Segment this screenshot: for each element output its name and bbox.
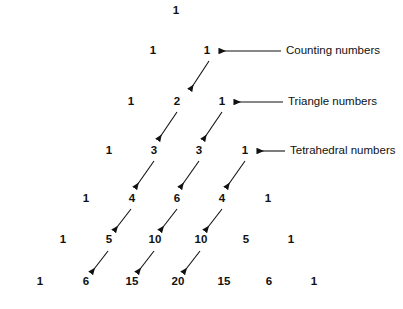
cell-r5-c4: 5 bbox=[243, 234, 249, 246]
diagonal-arrow bbox=[160, 209, 177, 231]
annotation-counting-numbers: Counting numbers bbox=[286, 45, 380, 57]
cell-r5-c3: 10 bbox=[195, 234, 208, 246]
cell-r1-c0: 1 bbox=[150, 45, 156, 57]
cell-r2-c2: 1 bbox=[219, 96, 225, 108]
annotation-triangle-numbers: Triangle numbers bbox=[288, 96, 377, 108]
diagonal-arrow bbox=[158, 112, 177, 140]
cell-r1-c1: 1 bbox=[204, 45, 210, 57]
cell-r3-c2: 3 bbox=[196, 145, 202, 157]
diagonal-arrow bbox=[135, 161, 154, 188]
cell-r6-c0: 1 bbox=[37, 276, 43, 288]
cell-r6-c1: 6 bbox=[83, 276, 89, 288]
diagonal-arrow bbox=[137, 251, 154, 273]
cell-r4-c3: 4 bbox=[219, 193, 225, 205]
diagonal-arrow bbox=[203, 112, 222, 140]
cell-r5-c1: 5 bbox=[106, 234, 112, 246]
diagonal-arrow bbox=[190, 61, 209, 90]
cell-r6-c2: 15 bbox=[126, 276, 139, 288]
cell-r4-c0: 1 bbox=[83, 193, 89, 205]
cell-r5-c0: 1 bbox=[60, 234, 66, 246]
cell-r6-c4: 15 bbox=[218, 276, 231, 288]
cell-r3-c3: 1 bbox=[242, 145, 248, 157]
diagonal-arrow bbox=[91, 251, 108, 273]
diagonal-arrow-group bbox=[91, 61, 245, 273]
cell-r3-c1: 3 bbox=[151, 145, 157, 157]
cell-r3-c0: 1 bbox=[106, 145, 112, 157]
cell-r2-c1: 2 bbox=[174, 96, 180, 108]
cell-r4-c4: 1 bbox=[265, 193, 271, 205]
diagonal-arrow bbox=[180, 161, 199, 188]
cell-r5-c2: 10 bbox=[149, 234, 162, 246]
cell-r6-c6: 1 bbox=[311, 276, 317, 288]
cell-r6-c5: 6 bbox=[266, 276, 272, 288]
cell-r4-c2: 6 bbox=[174, 193, 180, 205]
cell-r5-c5: 1 bbox=[288, 234, 294, 246]
diagonal-arrow bbox=[114, 209, 131, 231]
pascals-triangle-figure: 1 1 1 1 2 1 1 3 3 1 1 4 6 4 1 1 5 10 10 … bbox=[0, 0, 403, 309]
annotation-tetrahedral-numbers: Tetrahedral numbers bbox=[290, 145, 395, 157]
diagonal-arrow bbox=[226, 161, 245, 188]
cell-r4-c1: 4 bbox=[129, 193, 135, 205]
cell-r2-c0: 1 bbox=[128, 96, 134, 108]
cell-r6-c3: 20 bbox=[172, 276, 185, 288]
diagonal-arrow bbox=[205, 209, 222, 231]
diagonal-arrow bbox=[183, 251, 200, 273]
cell-r0-c0: 1 bbox=[173, 5, 179, 17]
